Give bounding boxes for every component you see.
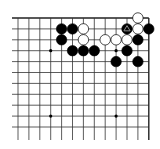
black-stone-icon — [111, 56, 121, 66]
white-stone-icon — [78, 35, 88, 45]
white-stone-icon — [133, 13, 143, 23]
white-stone-icon — [133, 24, 143, 34]
black-stone[interactable] — [133, 56, 143, 66]
black-stone[interactable] — [67, 45, 77, 55]
black-stone-icon — [78, 45, 88, 55]
black-stone-icon — [122, 45, 132, 55]
black-stone-icon — [56, 24, 66, 34]
black-stone-icon — [133, 56, 143, 66]
star-point-icon — [115, 49, 118, 52]
star-point-icon — [49, 115, 52, 118]
white-stone[interactable] — [133, 13, 143, 23]
black-stone-icon — [56, 35, 66, 45]
white-stone-icon — [100, 35, 110, 45]
black-stone[interactable] — [56, 24, 66, 34]
white-stone[interactable] — [100, 35, 110, 45]
black-stone[interactable] — [122, 24, 132, 34]
white-stone-icon — [122, 35, 132, 45]
black-stone[interactable] — [78, 45, 88, 55]
black-stone[interactable] — [89, 45, 99, 55]
white-stone[interactable] — [111, 35, 121, 45]
white-stone[interactable] — [133, 24, 143, 34]
black-stone[interactable] — [144, 24, 154, 34]
go-board[interactable] — [0, 0, 160, 149]
white-stone[interactable] — [78, 35, 88, 45]
star-point-icon — [115, 115, 118, 118]
white-stone-icon — [111, 35, 121, 45]
black-stone-icon — [67, 24, 77, 34]
black-stone[interactable] — [133, 35, 143, 45]
white-stone-icon — [78, 24, 88, 34]
white-stone[interactable] — [122, 35, 132, 45]
black-stone[interactable] — [122, 45, 132, 55]
black-stone[interactable] — [67, 24, 77, 34]
black-stone-icon — [89, 45, 99, 55]
white-stone[interactable] — [78, 24, 88, 34]
black-stone-icon — [67, 45, 77, 55]
black-stone-icon — [144, 24, 154, 34]
black-stone[interactable] — [111, 56, 121, 66]
star-point-icon — [49, 49, 52, 52]
black-stone-icon — [133, 35, 143, 45]
black-stone[interactable] — [56, 35, 66, 45]
